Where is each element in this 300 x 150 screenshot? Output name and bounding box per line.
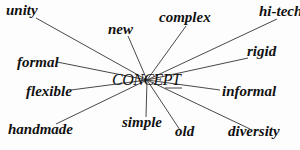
node-flexible: flexible [26, 84, 72, 99]
node-rigid: rigid [247, 44, 276, 59]
concept-association-diagram: unity new complex hi-tech formal rigid f… [0, 0, 300, 150]
node-handmade: handmade [8, 122, 73, 137]
node-new: new [108, 22, 133, 37]
node-simple: simple [122, 115, 162, 130]
node-diversity: diversity [228, 124, 280, 139]
node-complex: complex [159, 10, 211, 25]
node-formal: formal [17, 55, 59, 70]
node-informal: informal [222, 84, 276, 99]
node-hi-tech: hi-tech [259, 4, 300, 19]
node-unity: unity [6, 3, 38, 18]
node-old: old [175, 124, 194, 139]
center-concept: CONCEPT [112, 72, 181, 88]
